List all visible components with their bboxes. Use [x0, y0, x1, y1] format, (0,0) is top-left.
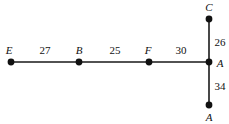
edge-lines: [11, 19, 209, 105]
node-dot-e: [8, 59, 15, 66]
diagram-canvas: [0, 0, 229, 124]
node-dot-a-junction: [206, 59, 213, 66]
graph-diagram: E B F A C A 27 25 30 26 34: [0, 0, 229, 124]
node-dot-c: [206, 16, 213, 23]
node-dot-a-bottom: [206, 102, 213, 109]
node-dot-b: [76, 59, 83, 66]
node-dot-f: [146, 59, 153, 66]
